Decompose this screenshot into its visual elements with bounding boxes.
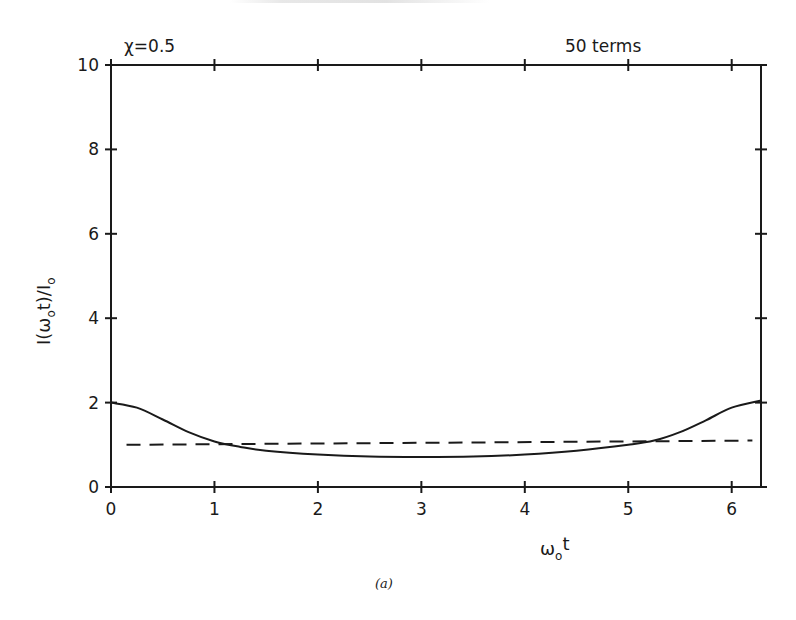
x-tick-label: 0 xyxy=(106,499,117,519)
y-tick-label: 0 xyxy=(88,477,99,497)
annotation-chi: χ=0.5 xyxy=(124,36,175,56)
x-tick-label: 6 xyxy=(726,499,737,519)
y-tick-label: 4 xyxy=(88,308,99,328)
plot-frame xyxy=(111,65,761,487)
solid-line-series xyxy=(111,400,761,457)
y-axis-label: I(ωot)/Io xyxy=(33,277,58,345)
annotation-terms: 50 terms xyxy=(565,36,641,56)
y-tick-label: 8 xyxy=(88,139,99,159)
plot-border xyxy=(111,65,761,487)
figure-caption: (a) xyxy=(375,576,393,591)
x-axis-label: ωot xyxy=(540,533,569,563)
x-tick-label: 3 xyxy=(416,499,427,519)
x-tick-label: 1 xyxy=(209,499,220,519)
y-tick-label: 2 xyxy=(88,393,99,413)
x-tick-label: 4 xyxy=(519,499,530,519)
y-tick-label: 6 xyxy=(88,224,99,244)
x-tick-label: 2 xyxy=(312,499,323,519)
x-tick-label: 5 xyxy=(623,499,634,519)
y-tick-label: 10 xyxy=(77,55,99,75)
y-axis-ticks: 0246810 xyxy=(77,55,767,497)
chart: 0123456 0246810 χ=0.5 50 terms ωot I(ωot… xyxy=(0,0,796,620)
x-axis-ticks: 0123456 xyxy=(106,59,738,519)
data-series xyxy=(111,400,761,457)
